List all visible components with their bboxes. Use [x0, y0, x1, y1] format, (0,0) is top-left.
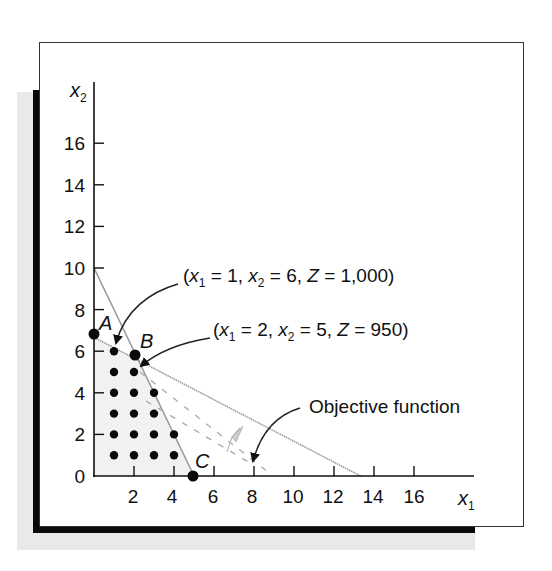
x-axis-title: x1: [457, 487, 475, 513]
svg-text:2: 2: [74, 424, 85, 445]
y-axis-title: x2: [69, 79, 87, 105]
svg-text:16: 16: [64, 133, 85, 154]
y-tick-labels: 0 2 4 6 8 10 12 14 16: [64, 133, 86, 487]
label-b: B: [140, 330, 153, 352]
x-tick-labels: 2 4 6 8 10 12 14 16: [128, 486, 425, 507]
annotation-optimal-integer: (x1 = 1, x2 = 6, Z = 1,000): [183, 265, 394, 290]
svg-text:14: 14: [362, 486, 384, 507]
svg-text:6: 6: [74, 341, 85, 362]
svg-text:6: 6: [208, 486, 219, 507]
svg-text:0: 0: [74, 466, 85, 487]
label-c: C: [195, 450, 210, 472]
svg-text:10: 10: [282, 486, 303, 507]
svg-text:10: 10: [64, 258, 85, 279]
svg-text:4: 4: [74, 383, 85, 404]
annotation-objective-function: Objective function: [309, 396, 460, 417]
svg-text:12: 12: [64, 216, 85, 237]
label-a: A: [98, 312, 112, 334]
svg-text:8: 8: [74, 300, 85, 321]
corner-point-b: [130, 350, 141, 361]
svg-text:14: 14: [64, 175, 86, 196]
svg-text:8: 8: [247, 486, 258, 507]
increase-direction-icon: [227, 426, 243, 452]
chart-svg: 0 2 4 6 8 10 12 14 16 2 4 6 8 10 12 14 1…: [0, 0, 552, 571]
corner-point-c: [188, 471, 199, 482]
svg-text:4: 4: [167, 486, 178, 507]
svg-text:16: 16: [403, 486, 424, 507]
annotation-rounded-solution: (x1 = 2, x2 = 5, Z = 950): [213, 319, 409, 344]
corner-point-a: [89, 329, 100, 340]
annotation-arrow-objective: [253, 408, 300, 461]
svg-text:12: 12: [322, 486, 343, 507]
svg-text:2: 2: [128, 486, 139, 507]
feasible-region: [94, 337, 194, 476]
